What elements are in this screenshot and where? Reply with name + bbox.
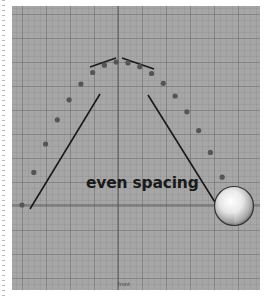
trajectory-dot [102, 63, 107, 68]
trajectory-dot [90, 70, 95, 75]
trajectory-dot [173, 93, 178, 98]
trajectory-dot [114, 60, 119, 65]
trajectory-dot [196, 128, 201, 133]
camera-label: front [118, 281, 130, 287]
trajectory-dot [67, 97, 72, 102]
trajectory-dot [78, 82, 83, 87]
trajectory-dot [31, 170, 36, 175]
trajectory-dot [55, 117, 60, 122]
annotation-even-spacing: even spacing [86, 174, 199, 192]
trajectory-dot [149, 71, 154, 76]
trajectory-dot [19, 202, 24, 207]
sphere-object[interactable] [215, 187, 254, 226]
trajectory-dot [208, 150, 213, 155]
scene-overlay [0, 0, 268, 298]
trajectory-dot [184, 109, 189, 114]
trajectory-dot [137, 64, 142, 69]
trajectory-dot [220, 175, 225, 180]
trajectory-dot [43, 141, 48, 146]
trajectory-dot [125, 60, 130, 65]
trajectory-dot [161, 81, 166, 86]
